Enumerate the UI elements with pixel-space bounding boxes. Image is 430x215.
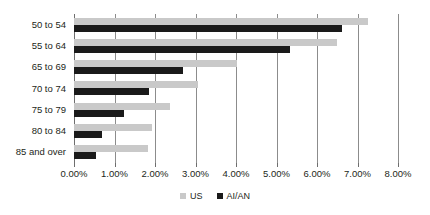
gridline: [398, 14, 399, 163]
bar-group: [74, 78, 398, 99]
bar-group: [74, 142, 398, 163]
bar-group: [74, 14, 398, 35]
bar-us: [74, 39, 337, 46]
value-axis-label: 8.00%: [363, 168, 430, 179]
legend-item-us[interactable]: US: [180, 191, 203, 201]
axis-tick: [317, 163, 318, 167]
category-label: 80 to 84: [0, 126, 66, 136]
bar-aian: [74, 110, 124, 117]
bar-group: [74, 35, 398, 56]
bar-aian: [74, 88, 149, 95]
axis-tick: [115, 163, 116, 167]
legend-swatch-icon-us: [180, 193, 186, 199]
value-axis: 0.00%1.00%2.00%3.00%4.00%5.00%6.00%7.00%…: [74, 168, 398, 182]
category-label: 50 to 54: [0, 20, 66, 30]
bar-group: [74, 99, 398, 120]
axis-tick: [236, 163, 237, 167]
bar-us: [74, 81, 198, 88]
legend-swatch-icon-aian: [217, 193, 223, 199]
bar-aian: [74, 131, 102, 138]
bar-us: [74, 124, 152, 131]
bar-group: [74, 57, 398, 78]
bar-us: [74, 60, 237, 67]
bar-aian: [74, 46, 290, 53]
category-label: 70 to 74: [0, 84, 66, 94]
axis-tick: [398, 163, 399, 167]
axis-tick: [155, 163, 156, 167]
axis-tick: [74, 163, 75, 167]
category-label: 55 to 64: [0, 41, 66, 51]
legend-label-aian: AI/AN: [227, 191, 251, 201]
category-label: 75 to 79: [0, 105, 66, 115]
legend-label-us: US: [190, 191, 203, 201]
axis-tick: [358, 163, 359, 167]
category-label: 85 and over: [0, 147, 66, 157]
bar-group: [74, 120, 398, 141]
category-axis: 50 to 5455 to 6465 to 6970 to 7475 to 79…: [0, 14, 70, 163]
bar-aian: [74, 67, 183, 74]
category-label: 65 to 69: [0, 62, 66, 72]
bar-aian: [74, 152, 96, 159]
bar-us: [74, 18, 368, 25]
axis-tick: [196, 163, 197, 167]
bar-chart: 50 to 5455 to 6465 to 6970 to 7475 to 79…: [0, 0, 430, 215]
bar-us: [74, 103, 170, 110]
bar-us: [74, 145, 148, 152]
bar-aian: [74, 25, 342, 32]
plot-area: [74, 14, 398, 163]
legend-item-aian[interactable]: AI/AN: [217, 191, 251, 201]
chart-legend: US AI/AN: [0, 191, 430, 201]
axis-tick: [277, 163, 278, 167]
